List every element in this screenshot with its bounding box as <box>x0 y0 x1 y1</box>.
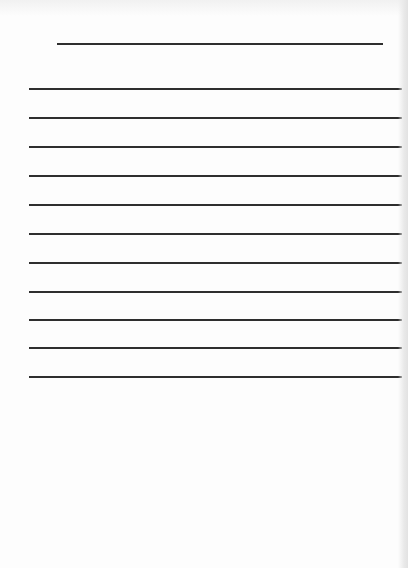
scan-top-shadow <box>0 0 408 16</box>
title-line <box>57 43 383 45</box>
writing-line <box>29 175 402 177</box>
writing-line <box>29 262 402 264</box>
writing-line <box>29 233 402 235</box>
ruled-page <box>0 0 408 568</box>
page-edge-shadow <box>398 0 408 568</box>
writing-line <box>29 117 402 119</box>
writing-line <box>29 319 402 321</box>
writing-line <box>29 88 402 90</box>
writing-line <box>29 347 402 349</box>
writing-line <box>29 146 402 148</box>
writing-line <box>29 204 402 206</box>
writing-line <box>29 376 402 378</box>
writing-line <box>29 291 402 293</box>
